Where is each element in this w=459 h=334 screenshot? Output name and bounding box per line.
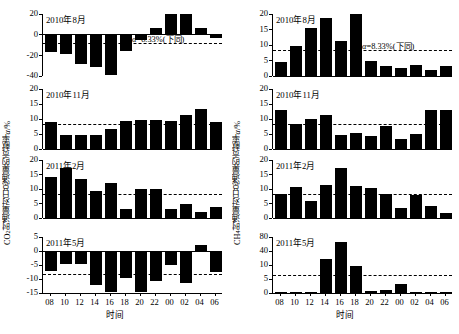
panel-title: 2011年5月: [46, 236, 85, 249]
y-tick-label: -20: [6, 51, 38, 60]
y-tick-label: -40: [6, 71, 38, 80]
bar: [305, 28, 317, 76]
bar: [135, 251, 147, 292]
y-tick-mark: [269, 237, 272, 238]
figure-root: CO2时通量对日总通量的贡献率α/% -40-200202010年8月α=8.3…: [0, 0, 459, 334]
y-tick-label: 20: [236, 155, 268, 164]
bar: [425, 70, 437, 76]
panel-title: 2010年8月: [46, 13, 86, 26]
y-tick-label: 5: [236, 56, 268, 65]
bar: [90, 191, 102, 218]
y-tick-label: 20: [6, 155, 38, 164]
bar: [90, 251, 102, 285]
y-tick-mark: [39, 218, 42, 219]
bar: [305, 201, 317, 218]
alpha-reference-line: [43, 274, 222, 275]
y-tick-mark: [39, 189, 42, 190]
y-tick-label: 15: [236, 170, 268, 179]
y-tick-label: 20: [6, 9, 38, 18]
bar: [290, 124, 302, 149]
bar: [410, 195, 422, 218]
y-tick-mark: [39, 34, 42, 35]
bar: [440, 213, 452, 218]
y-tick-mark: [39, 174, 42, 175]
y-tick-label: 5: [6, 199, 38, 208]
y-tick-mark: [39, 237, 42, 238]
bar: [195, 212, 207, 218]
bar: [60, 135, 72, 149]
y-tick-mark: [269, 14, 272, 15]
bar: [45, 122, 57, 149]
bar: [60, 251, 72, 264]
bar: [75, 179, 87, 218]
x-axis-line: [42, 293, 222, 294]
y-tick-label: 0: [236, 213, 268, 222]
alpha-reference-line: [273, 124, 452, 125]
column-ch4: CH4时通量对日总通量的贡献率α/% 051015202010年8月α=8.33…: [230, 0, 459, 334]
y-tick-mark: [39, 14, 42, 15]
y-axis-label-ch4: CH4时通量对日总通量的贡献率α/%: [231, 58, 245, 308]
y-tick-label: 0: [236, 144, 268, 153]
bar: [120, 209, 132, 218]
y-tick-label: 40: [236, 246, 268, 255]
y-axis-label-co2: CO2时通量对日总通量的贡献率α/%: [1, 58, 15, 308]
x-axis-caption: 时间: [230, 308, 459, 320]
bar: [320, 115, 332, 150]
bar: [210, 207, 222, 218]
bar: [335, 135, 347, 149]
y-tick-mark: [269, 45, 272, 46]
panel-title: 2010年11月: [276, 88, 320, 101]
y-tick-label: 0: [236, 288, 268, 297]
bar: [75, 35, 87, 64]
x-tick-label: 06: [206, 297, 224, 307]
bar: [350, 186, 362, 218]
y-tick-mark: [269, 134, 272, 135]
y-tick-mark: [39, 160, 42, 161]
bar: [275, 62, 287, 76]
y-tick-label: -15: [6, 288, 38, 297]
panel-title: 2010年11月: [46, 88, 90, 101]
y-tick-mark: [39, 119, 42, 120]
y-tick-mark: [39, 104, 42, 105]
y-tick-label: 5: [6, 232, 38, 241]
bar: [75, 135, 87, 149]
bar: [365, 188, 377, 218]
bar: [210, 122, 222, 149]
y-tick-label: -10: [6, 274, 38, 283]
panel-title: 2011年5月: [276, 236, 315, 249]
y-tick-label: 0: [6, 30, 38, 39]
bar: [395, 68, 407, 76]
y-tick-label: 10: [236, 40, 268, 49]
y-axis-label-ch4-text: CH4时通量对日总通量的贡献率α/%: [233, 121, 242, 245]
y-tick-label: 15: [6, 99, 38, 108]
bar: [410, 65, 422, 76]
y-tick-mark: [269, 218, 272, 219]
y-tick-label: 20: [236, 9, 268, 18]
y-tick-label: -5: [6, 260, 38, 269]
bar: [75, 251, 87, 264]
y-tick-mark: [269, 119, 272, 120]
y-tick-label: 5: [236, 129, 268, 138]
y-tick-mark: [39, 55, 42, 56]
x-tick-label: 06: [436, 297, 454, 307]
bar: [180, 115, 192, 149]
bar: [350, 266, 362, 293]
alpha-reference-line: [273, 275, 452, 276]
bar: [440, 110, 452, 149]
y-tick-label: 15: [236, 25, 268, 34]
bar: [90, 35, 102, 68]
bar: [210, 35, 222, 38]
y-tick-label: 10: [236, 114, 268, 123]
bar: [105, 129, 117, 149]
bar: [165, 209, 177, 218]
bar: [380, 194, 392, 218]
bar: [45, 177, 57, 218]
y-tick-mark: [269, 203, 272, 204]
column-co2: CO2时通量对日总通量的贡献率α/% -40-200202010年8月α=8.3…: [0, 0, 229, 334]
bar: [120, 121, 132, 149]
y-tick-mark: [39, 279, 42, 280]
bar: [60, 35, 72, 55]
bar: [425, 110, 437, 149]
bar: [395, 284, 407, 293]
y-tick-label: 0: [6, 246, 38, 255]
